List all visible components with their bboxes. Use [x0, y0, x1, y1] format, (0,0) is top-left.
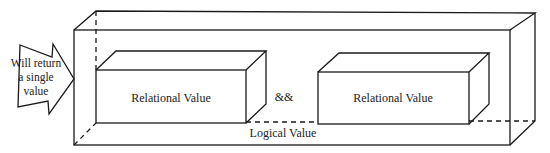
operator-label: &&: [275, 90, 294, 105]
right-box-label: Relational Value: [353, 91, 432, 106]
arrow-label-line-1: Will return: [8, 56, 64, 70]
arrow-label: Will return a single value: [8, 56, 64, 98]
left-box-label: Relational Value: [131, 91, 210, 106]
arrow-label-line-2: a single: [8, 70, 64, 84]
outer-box-logical: [74, 11, 535, 145]
right-relational-box: [318, 53, 489, 124]
outer-box-label: Logical Value: [250, 126, 317, 141]
logical-expression-diagram: Will return a single value Relational Va…: [0, 0, 550, 153]
arrow-label-line-3: value: [8, 84, 64, 98]
left-relational-box: [96, 51, 266, 123]
